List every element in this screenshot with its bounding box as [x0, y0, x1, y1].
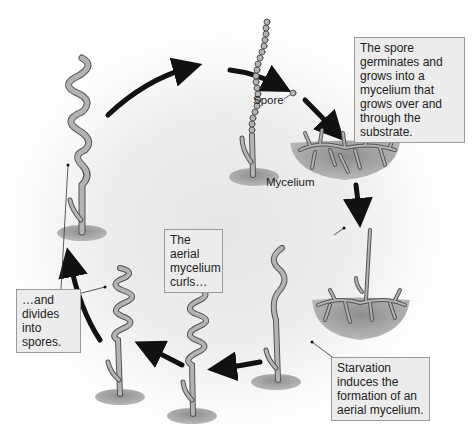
free-spore: [290, 90, 296, 96]
mycelium-label: Mycelium: [266, 176, 315, 189]
arrow-bottom-right: [222, 362, 260, 368]
spore-label: Spore: [253, 94, 284, 107]
arrow-bottom-left: [148, 348, 182, 365]
arrow-right-top: [305, 100, 334, 130]
germination-callout: The spore germinates and grows into a my…: [354, 37, 465, 143]
curls-callout: The aerial mycelium curls…: [164, 229, 223, 293]
cycle-arrows: [70, 68, 359, 368]
coiled-aerial-hypha-left: [108, 268, 132, 394]
wavy-aerial-hypha: [266, 248, 285, 380]
divides-callout: …and divides into spores.: [16, 289, 81, 353]
segmented-aerial-hypha: [69, 58, 89, 232]
starvation-callout: Starvation induces the formation of an a…: [331, 357, 430, 421]
arrow-top-left: [108, 68, 188, 115]
arrow-right-down: [356, 185, 359, 213]
